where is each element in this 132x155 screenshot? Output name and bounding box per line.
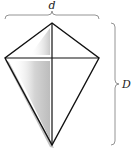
top-brace bbox=[5, 11, 99, 19]
shading-lower-left bbox=[12, 61, 50, 140]
label-long-diagonal: D bbox=[121, 78, 131, 91]
right-brace bbox=[111, 23, 119, 145]
kite-diagram: d D bbox=[0, 0, 132, 155]
label-short-diagonal: d bbox=[48, 0, 55, 12]
